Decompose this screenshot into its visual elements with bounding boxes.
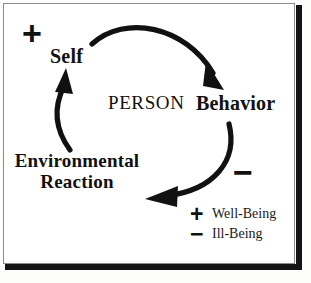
legend-item-ill-being: − Ill-Being	[190, 224, 294, 244]
legend-item-well-being: + Well-Being	[190, 204, 294, 224]
legend-label-ill-being: Ill-Being	[212, 226, 263, 242]
minus-sign-behavior: −	[233, 155, 253, 189]
arrow-behavior-to-environmental-reaction	[145, 124, 231, 207]
legend-label-well-being: Well-Being	[212, 206, 276, 222]
diagram-canvas: + − Self PERSON Behavior Environmental R…	[0, 0, 311, 283]
node-label-environmental-reaction: Environmental Reaction	[14, 150, 140, 192]
node-label-person: PERSON	[108, 92, 184, 114]
node-label-behavior: Behavior	[196, 92, 275, 115]
arrow-environmental-reaction-to-self	[55, 68, 73, 150]
node-label-self: Self	[50, 45, 83, 68]
legend: + Well-Being − Ill-Being	[190, 204, 294, 244]
arrow-self-to-behavior	[92, 28, 224, 90]
legend-minus-icon: −	[190, 223, 212, 246]
plus-sign-self: +	[22, 16, 42, 50]
